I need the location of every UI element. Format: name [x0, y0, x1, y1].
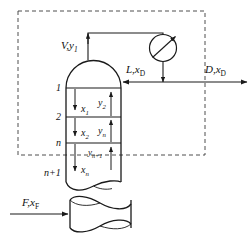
tray-number-n: n	[56, 138, 61, 148]
column-break-inner-curve	[94, 186, 113, 189]
column-bottom-break	[66, 181, 121, 190]
label-overhead-vapor: V,y1	[61, 40, 78, 54]
label-feed: F,xF	[22, 197, 39, 211]
tray-number-1: 1	[56, 83, 61, 93]
label-distillate: D,xD	[205, 64, 226, 78]
feed-vessel-top-break	[70, 196, 131, 208]
column-side-walls	[66, 88, 121, 182]
tray-number-2: 2	[56, 112, 61, 122]
label-vapor-yn-plus-1: yn+1	[88, 148, 102, 159]
feed-break-inner-curve-bottom	[100, 224, 131, 229]
label-vapor-yn: yn	[98, 126, 106, 139]
diagram-canvas: V,y1 L,xD D,xD F,xF 1 2 n n+1 x1 x2 xn y…	[0, 0, 251, 244]
label-liquid-x2: x2	[81, 128, 89, 141]
label-liquid-x1: x1	[81, 104, 89, 117]
label-vapor-y2: y2	[98, 98, 106, 111]
label-liquid-xn: xn	[81, 165, 89, 178]
tray-number-n-plus-1: n+1	[44, 168, 61, 178]
label-reflux: L,xD	[126, 64, 145, 78]
column-dome-top	[66, 60, 121, 88]
feed-vessel-walls	[70, 200, 131, 228]
